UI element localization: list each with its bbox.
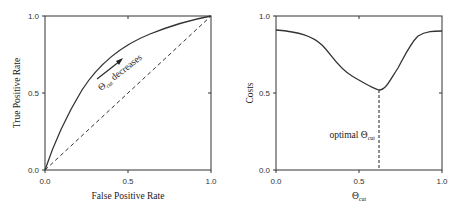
random-classifier-line: [45, 16, 211, 170]
cost-xtick-05: 0.5: [353, 177, 365, 186]
roc-x-axis-label: False Positive Rate: [92, 191, 165, 201]
roc-ytick-0: 0.0: [28, 166, 40, 175]
cost-xtick-1: 1.0: [436, 177, 448, 186]
cost-curve: [276, 30, 442, 90]
cost-ytick-1: 1.0: [259, 12, 271, 21]
roc-chart: 1.0 0.5 0.0 0.0 0.5 1.0 False Positive R…: [12, 12, 217, 201]
roc-xtick-1: 1.0: [205, 177, 217, 186]
figure: 1.0 0.5 0.0 0.0 0.5 1.0 False Positive R…: [0, 0, 457, 213]
cost-ytick-05: 0.5: [259, 89, 271, 98]
theta-decreases-annotation: Θcut decreases: [96, 52, 145, 93]
cost-x-axis-label: Θcut: [352, 191, 367, 202]
cost-plot-frame: [276, 16, 442, 170]
cost-chart: 1.0 0.5 0.0 0.0 0.5 1.0 Θcut Costs optim…: [245, 12, 448, 202]
cost-ytick-0: 0.0: [259, 166, 271, 175]
optimal-theta-annotation: optimal Θcut: [329, 130, 375, 141]
cost-xtick-0: 0.0: [270, 177, 282, 186]
roc-y-axis-label: True Positive Rate: [12, 58, 22, 128]
cost-y-axis-label: Costs: [245, 82, 255, 103]
roc-xtick-0: 0.0: [39, 177, 51, 186]
roc-xtick-05: 0.5: [122, 177, 134, 186]
roc-ytick-1: 1.0: [28, 12, 40, 21]
roc-ytick-05: 0.5: [28, 89, 40, 98]
